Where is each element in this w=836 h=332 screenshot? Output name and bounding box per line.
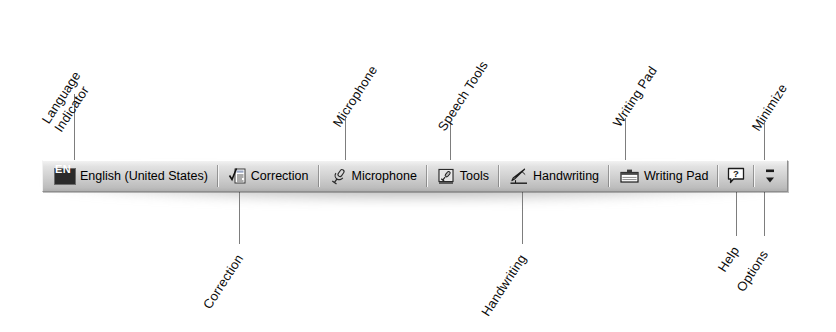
speech-tools-label: Tools: [460, 170, 489, 183]
toolbar-separator: [498, 165, 500, 187]
options-button[interactable]: [756, 163, 784, 189]
toolbar-separator: [717, 165, 719, 187]
language-code-icon: EN: [54, 168, 76, 185]
annotated-language-bar-figure: EN English (United States) Correction: [0, 0, 836, 332]
speech-tools-icon: [437, 167, 456, 186]
callout-handwriting: Handwriting: [449, 251, 530, 332]
microphone-label: Microphone: [352, 170, 417, 183]
callout-help-label: Help: [715, 243, 743, 274]
callout-speech-tools-label: Speech Tools: [435, 58, 491, 133]
correction-button[interactable]: Correction: [220, 163, 317, 189]
callout-language-indicator: Language Indicator: [39, 69, 96, 135]
callout-correction: Correction: [168, 251, 246, 332]
callout-minimize-label: Minimize: [749, 81, 790, 134]
writing-pad-button[interactable]: Writing Pad: [611, 163, 716, 189]
handwriting-label: Handwriting: [533, 170, 599, 183]
callout-microphone: Microphone: [330, 63, 381, 130]
callout-speech-tools: Speech Tools: [435, 58, 491, 133]
writing-pad-icon: [619, 167, 640, 186]
help-icon: ?: [727, 167, 745, 185]
toolbar-separator: [318, 165, 320, 187]
correction-icon: [228, 167, 247, 186]
language-indicator-label: English (United States): [80, 170, 208, 183]
toolbar-separator: [608, 165, 610, 187]
callout-minimize: Minimize: [749, 81, 790, 134]
options-icon: [763, 166, 777, 186]
microphone-button[interactable]: Microphone: [321, 163, 425, 189]
correction-label: Correction: [251, 170, 309, 183]
speech-tools-button[interactable]: Tools: [429, 163, 497, 189]
toolbar-separator: [753, 165, 755, 187]
handwriting-button[interactable]: Handwriting: [501, 163, 607, 189]
help-button[interactable]: ?: [720, 163, 752, 189]
handwriting-icon: [509, 167, 529, 186]
callout-writing-pad-label: Writing Pad: [610, 63, 660, 129]
toolbar-separator: [426, 165, 428, 187]
toolbar-separator: [217, 165, 219, 187]
language-indicator-button[interactable]: EN English (United States): [46, 163, 216, 189]
svg-text:?: ?: [734, 168, 740, 179]
language-bar[interactable]: EN English (United States) Correction: [42, 160, 788, 192]
microphone-icon: [329, 167, 348, 186]
callout-writing-pad: Writing Pad: [610, 63, 660, 129]
callout-microphone-label: Microphone: [330, 63, 381, 130]
writing-pad-label: Writing Pad: [644, 170, 708, 183]
callout-handwriting-label: Handwriting: [478, 251, 529, 319]
callout-correction-label: Correction: [200, 251, 246, 311]
